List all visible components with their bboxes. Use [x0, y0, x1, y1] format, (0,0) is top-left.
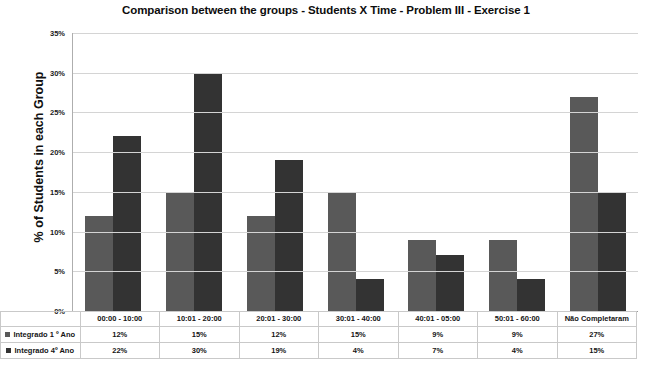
value-cell: 22%	[80, 343, 160, 359]
legend-item-series-1[interactable]: Integrado 1 º Ano	[1, 327, 81, 343]
chart-container: Comparison between the groups - Students…	[0, 0, 652, 373]
value-cell: 27%	[557, 327, 637, 343]
legend-label: Integrado 1 º Ano	[13, 330, 75, 339]
value-cell: 9%	[398, 327, 478, 343]
bar-series-1	[85, 216, 113, 311]
bar-group	[315, 33, 396, 311]
table-row: Integrado 4º Ano22%30%19%4%7%4%15%	[1, 343, 637, 359]
value-cell: 12%	[80, 327, 160, 343]
gridline-15	[73, 192, 638, 193]
y-tick-label: 10%	[50, 227, 65, 236]
data-table-wrap: 00:00 - 10:0010:01 - 20:0020:01 - 30:003…	[0, 311, 637, 359]
bar-series-1	[166, 192, 194, 311]
bar-series-1	[247, 216, 275, 311]
y-tick-label: 25%	[50, 108, 65, 117]
value-cell: 30%	[160, 343, 240, 359]
data-table-body: 00:00 - 10:0010:01 - 20:0020:01 - 30:003…	[1, 312, 637, 359]
category-header-cell: 10:01 - 20:00	[160, 312, 240, 327]
value-cell: 7%	[398, 343, 478, 359]
value-cell: 15%	[319, 327, 399, 343]
y-tick-label: 30%	[50, 68, 65, 77]
legend-swatch-icon	[6, 348, 11, 353]
category-header-cell: Não Completaram	[557, 312, 637, 327]
plot-area	[72, 33, 637, 311]
legend-swatch-icon	[5, 332, 10, 337]
legend-item-series-2[interactable]: Integrado 4º Ano	[1, 343, 81, 359]
bar-series-2	[113, 136, 141, 311]
value-cell: 15%	[557, 343, 637, 359]
bar-group	[234, 33, 315, 311]
bar-group	[477, 33, 558, 311]
value-cell: 19%	[239, 343, 319, 359]
bar-series-1	[570, 97, 598, 311]
bar-series-1	[489, 240, 517, 311]
bar-group	[73, 33, 154, 311]
table-row: Integrado 1 º Ano12%15%12%15%9%9%27%	[1, 327, 637, 343]
gridline-25	[73, 112, 638, 113]
category-header-cell: 20:01 - 30:00	[239, 312, 319, 327]
y-tick-label: 15%	[50, 187, 65, 196]
gridline-10	[73, 232, 638, 233]
y-tick-label: 35%	[50, 29, 65, 38]
table-corner-cell	[1, 312, 81, 327]
value-cell: 12%	[239, 327, 319, 343]
bar-series-1	[328, 192, 356, 311]
category-header-cell: 40:01 - 05:00	[398, 312, 478, 327]
category-header-cell: 50:01 - 60:00	[478, 312, 558, 327]
bar-series-2	[517, 279, 545, 311]
bar-group	[396, 33, 477, 311]
bar-series-2	[598, 192, 626, 311]
value-cell: 4%	[319, 343, 399, 359]
y-tick-label: 20%	[50, 148, 65, 157]
category-header-cell: 00:00 - 10:00	[80, 312, 160, 327]
y-tick-label: 5%	[54, 267, 65, 276]
gridline-30	[73, 73, 638, 74]
table-row: 00:00 - 10:0010:01 - 20:0020:01 - 30:003…	[1, 312, 637, 327]
gridline-5	[73, 271, 638, 272]
bar-series-2	[275, 160, 303, 311]
bar-group	[557, 33, 638, 311]
gridline-35	[73, 33, 638, 34]
value-cell: 4%	[478, 343, 558, 359]
value-cell: 15%	[160, 327, 240, 343]
y-axis-tick-labels: 35%30%25%20%15%10%5%0%	[0, 0, 72, 320]
chart-title: Comparison between the groups - Students…	[0, 4, 652, 16]
bar-series-1	[408, 240, 436, 311]
value-cell: 9%	[478, 327, 558, 343]
bar-group	[154, 33, 235, 311]
bar-groups	[73, 33, 638, 311]
bar-series-2	[436, 255, 464, 311]
bar-series-2	[356, 279, 384, 311]
category-header-cell: 30:01 - 40:00	[319, 312, 399, 327]
data-table: 00:00 - 10:0010:01 - 20:0020:01 - 30:003…	[0, 311, 637, 359]
legend-label: Integrado 4º Ano	[14, 346, 74, 355]
gridline-20	[73, 152, 638, 153]
